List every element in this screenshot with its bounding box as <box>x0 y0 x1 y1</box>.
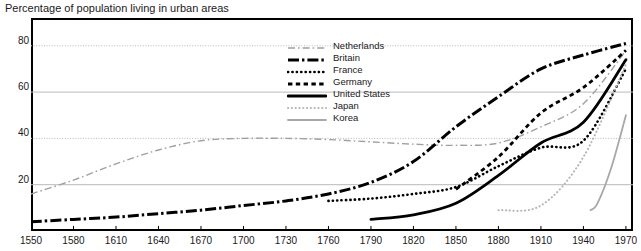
urbanization-line-chart: Percentage of population living in urban… <box>0 0 641 251</box>
legend-swatch-icon <box>287 112 327 124</box>
chart-legend: NetherlandsBritainFranceGermanyUnited St… <box>287 40 407 124</box>
x-tick-label: 1820 <box>393 236 433 246</box>
legend-label: Netherlands <box>327 40 384 52</box>
chart-title: Percentage of population living in urban… <box>5 2 229 15</box>
legend-item-japan[interactable]: Japan <box>287 100 407 112</box>
x-tick-label: 1700 <box>223 236 263 246</box>
x-tick-label: 1790 <box>351 236 391 246</box>
y-tick-label: 60 <box>3 82 29 92</box>
legend-item-britain[interactable]: Britain <box>287 52 407 64</box>
x-tick-label: 1880 <box>478 236 518 246</box>
x-tick-marks <box>31 226 626 231</box>
x-tick-label: 1550 <box>11 236 51 246</box>
legend-item-netherlands[interactable]: Netherlands <box>287 40 407 52</box>
x-tick-label: 1580 <box>53 236 93 246</box>
x-tick-label: 1610 <box>96 236 136 246</box>
x-tick-label: 1850 <box>436 236 476 246</box>
legend-label: United States <box>327 88 390 100</box>
legend-label: Britain <box>327 52 360 64</box>
series-line-korea <box>591 115 626 210</box>
x-tick-label: 1640 <box>138 236 178 246</box>
x-tick-label: 1910 <box>521 236 561 246</box>
legend-label: Japan <box>327 100 359 112</box>
legend-label: Germany <box>327 76 372 88</box>
y-tick-label: 20 <box>3 175 29 185</box>
legend-label: Korea <box>327 112 358 124</box>
legend-label: France <box>327 64 363 76</box>
x-tick-label: 1970 <box>606 236 641 246</box>
legend-swatch-icon <box>287 40 327 52</box>
legend-item-france[interactable]: France <box>287 64 407 76</box>
x-tick-label: 1760 <box>308 236 348 246</box>
legend-swatch-icon <box>287 64 327 76</box>
legend-item-united-states[interactable]: United States <box>287 88 407 100</box>
legend-item-korea[interactable]: Korea <box>287 112 407 124</box>
legend-swatch-icon <box>287 52 327 64</box>
y-tick-label: 40 <box>3 128 29 138</box>
series-line-united-states <box>371 60 626 220</box>
legend-swatch-icon <box>287 100 327 112</box>
legend-swatch-icon <box>287 88 327 100</box>
x-tick-label: 1940 <box>563 236 603 246</box>
series-line-germany <box>456 50 626 189</box>
legend-item-germany[interactable]: Germany <box>287 76 407 88</box>
legend-swatch-icon <box>287 76 327 88</box>
x-tick-label: 1670 <box>181 236 221 246</box>
x-tick-label: 1730 <box>266 236 306 246</box>
y-tick-label: 80 <box>3 36 29 46</box>
